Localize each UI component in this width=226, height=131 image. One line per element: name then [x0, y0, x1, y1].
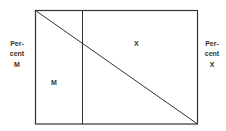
- left-axis-line3: M: [3, 61, 31, 68]
- right-axis-label: Per- cent X: [198, 40, 226, 71]
- region-label-m: M: [51, 79, 57, 86]
- diagram-frame: [0, 0, 226, 131]
- left-axis-line1: Per-: [3, 40, 31, 47]
- diagonal-line: [36, 11, 198, 125]
- right-axis-line2: cent: [198, 50, 226, 57]
- right-axis-line1: Per-: [198, 40, 226, 47]
- left-axis-label: Per- cent M: [3, 40, 31, 71]
- region-label-x: X: [134, 40, 139, 47]
- right-axis-line3: X: [198, 61, 226, 68]
- left-axis-line2: cent: [3, 50, 31, 57]
